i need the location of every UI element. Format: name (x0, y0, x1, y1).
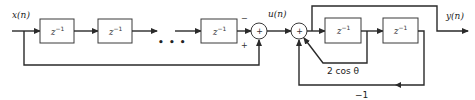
output-label: y(n) (445, 11, 464, 21)
summer-1: + (251, 23, 267, 39)
gain-minus-one: −1 (355, 90, 368, 100)
gain-2cos-theta: 2 cos θ (327, 66, 360, 76)
delay-block-resonator-2: z−1 (383, 18, 418, 43)
arrow-head-icon (395, 82, 401, 88)
delay-block-n: z−1 (201, 19, 237, 43)
delay-exponent: −1 (341, 24, 350, 31)
delay-block-2: z−1 (98, 19, 132, 43)
delay-exponent: −1 (55, 25, 64, 32)
delay-block-1: z−1 (40, 19, 74, 43)
plus-sign: + (241, 41, 248, 50)
intermediate-label: u(n) (268, 9, 287, 19)
delay-block-resonator-1: z−1 (325, 18, 361, 43)
summer-plus: + (256, 27, 263, 36)
ellipsis: • • • (158, 37, 187, 47)
delay-exponent: −1 (217, 25, 226, 32)
summer-2: + (291, 23, 307, 39)
block-diagram: x(n) z−1 z−1 • • • z−1 − + + u(n) + y(n (0, 0, 475, 100)
delay-exponent: −1 (113, 25, 122, 32)
delay-exponent: −1 (398, 24, 407, 31)
summer-plus: + (296, 27, 303, 36)
minus-sign: − (241, 14, 248, 23)
input-label: x(n) (12, 10, 30, 20)
